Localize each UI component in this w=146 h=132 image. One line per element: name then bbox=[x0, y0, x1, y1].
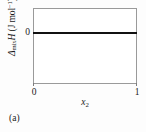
x-tick-label-0: 0 bbox=[26, 86, 42, 98]
y-axis-label-units-close: ) bbox=[7, 0, 17, 1]
y-axis-label-delta: Δ bbox=[7, 50, 17, 55]
y-axis-label: ΔmixH (J mol−1) bbox=[3, 0, 17, 65]
y-axis-label-quantity: H bbox=[7, 34, 17, 41]
panel-caption: (a) bbox=[9, 112, 20, 124]
y-axis-label-units: (J mol bbox=[7, 8, 17, 34]
y-axis-label-exponent: −1 bbox=[6, 1, 13, 8]
data-line-zero bbox=[33, 32, 137, 34]
x-axis-label: x2 bbox=[45, 96, 125, 111]
x-tick-label-1: 1 bbox=[129, 86, 145, 98]
y-axis-label-subscript: mix bbox=[10, 40, 17, 50]
figure-panel-a: ΔmixH (J mol−1) 0 0 1 x2 (a) bbox=[0, 0, 146, 132]
x-axis-label-subscript: 2 bbox=[85, 101, 88, 108]
y-tick-label-0: 0 bbox=[19, 26, 30, 38]
plot-frame bbox=[33, 8, 137, 84]
